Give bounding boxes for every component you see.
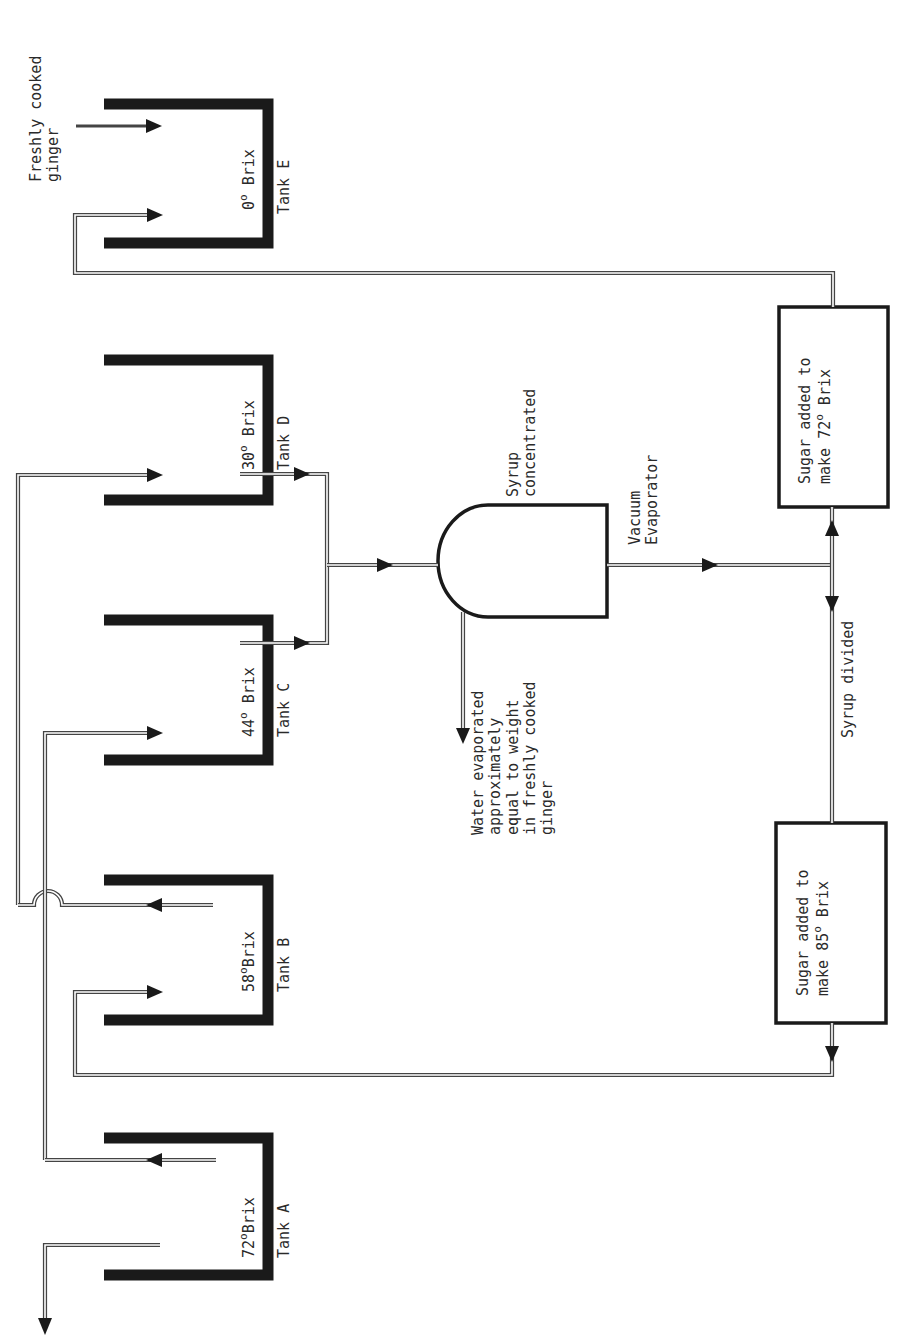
arrow-right-icon (294, 636, 310, 650)
degree: o (811, 926, 824, 933)
flow-arrows (38, 119, 839, 1335)
arrow-left-icon (146, 898, 162, 912)
process-flow-diagram: Freshly cooked ginger 0o Brix Tank E 30o… (0, 0, 911, 1341)
syrup-divided-label: Syrup divided (840, 621, 857, 738)
arrow-right-icon (147, 468, 163, 482)
water-evaporated-note: Water evaporated approximately equal to … (470, 681, 556, 835)
tank-b-brix: 58oBrix (238, 931, 258, 992)
input-label: Freshly cooked ginger (28, 56, 63, 182)
arrow-right-icon (147, 726, 163, 740)
arrow-left-icon (146, 1153, 162, 1167)
arrow-right-icon (294, 467, 310, 481)
tank-e-brix: 0o Brix (238, 149, 258, 210)
pipes (18, 126, 833, 1328)
arrow-up-icon (825, 520, 839, 536)
brix-unit: Brix (240, 667, 258, 703)
box-line-2-prefix: make (816, 439, 834, 484)
evaporator-name: Vacuum Evaporator (627, 455, 662, 545)
box-value: 72 (816, 421, 834, 439)
brix-value: 30 (240, 452, 258, 470)
water-line-5: ginger (538, 781, 556, 835)
brix-value: 0 (240, 201, 258, 210)
degree: o (237, 967, 250, 974)
water-line-3: equal to weight (504, 700, 522, 835)
name-line-2: Evaporator (643, 455, 661, 545)
arrow-down-icon (38, 1318, 52, 1335)
degree: o (237, 712, 250, 719)
arrow-down-icon (825, 1046, 839, 1062)
tank-d-brix: 30o Brix (238, 400, 258, 470)
degree: o (237, 1233, 250, 1240)
degree: o (237, 445, 250, 452)
water-line-1: Water evaporated (469, 691, 487, 836)
tank-a-brix: 72oBrix (238, 1197, 258, 1258)
brix-value: 44 (240, 719, 258, 737)
brix-unit: Brix (240, 149, 258, 185)
arrow-down-icon (825, 596, 839, 612)
diagram-graphics (0, 0, 911, 1341)
tank-c-label: Tank C (276, 683, 293, 737)
water-line-2: approximately (486, 718, 504, 835)
evaporator-note: Syrup concentrated (505, 389, 540, 497)
box-value: 85 (814, 933, 832, 951)
degree: o (237, 194, 250, 201)
note-line-2: concentrated (521, 389, 539, 497)
box-line-2-prefix: make (814, 951, 832, 996)
degree: o (813, 414, 826, 421)
input-line-1: Freshly cooked (27, 56, 45, 182)
arrow-down-icon (456, 728, 470, 744)
tank-e-label: Tank E (276, 160, 293, 214)
brix-unit: Brix (240, 400, 258, 436)
note-line-1: Syrup (504, 452, 522, 497)
brix-value: 58 (240, 974, 258, 992)
input-line-2: ginger (44, 128, 62, 182)
box-line-1: Sugar added to (796, 358, 814, 484)
sugar-box-72-text: Sugar added to make 72o Brix (797, 358, 835, 484)
arrow-right-icon (147, 985, 163, 999)
box-line-1: Sugar added to (794, 870, 812, 996)
tank-b-label: Tank B (276, 938, 293, 992)
tank-c-brix: 44o Brix (238, 667, 258, 737)
brix-unit: Brix (240, 931, 258, 967)
sugar-box-85-text: Sugar added to make 85o Brix (795, 870, 833, 996)
name-line-1: Vacuum (626, 491, 644, 545)
vacuum-evaporator (438, 505, 607, 617)
water-line-4: in freshly cooked (521, 681, 539, 835)
brix-unit: Brix (240, 1197, 258, 1233)
arrow-right-icon (377, 558, 393, 572)
tank-a-label: Tank A (276, 1204, 293, 1258)
arrow-right-icon (146, 119, 162, 133)
arrow-right-icon (702, 558, 718, 572)
box-line-2-suffix: Brix (816, 369, 834, 414)
tank-d-label: Tank D (276, 416, 293, 470)
box-line-2-suffix: Brix (814, 881, 832, 926)
brix-value: 72 (240, 1240, 258, 1258)
arrow-right-icon (147, 208, 163, 222)
